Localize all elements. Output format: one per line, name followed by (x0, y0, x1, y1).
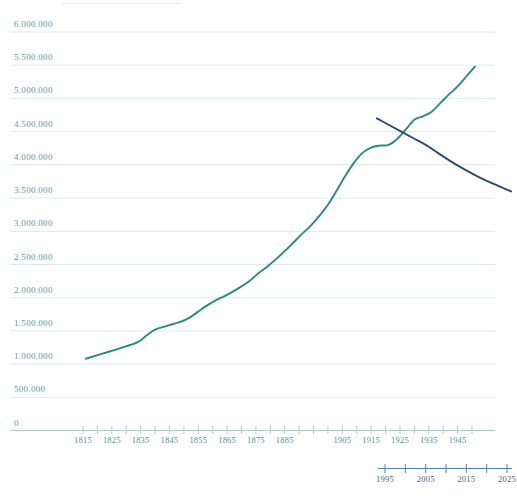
y-axis-tick-label: 4.000.000 (14, 152, 53, 162)
x-axis-tick-label: 1855 (189, 435, 207, 445)
x-axis-tick-label: 1905 (333, 435, 351, 445)
series-line-projection (377, 118, 511, 191)
x-axis-primary-labels: 1815182518351845185518651875188519051915… (74, 435, 466, 445)
y-axis-tick-label: 2.500.000 (14, 252, 53, 262)
x-axis-secondary-labels: 1995200520152025 (376, 474, 516, 484)
x-axis-tick-label: 1875 (247, 435, 265, 445)
x-axis-secondary: 1995200520152025 (376, 464, 516, 484)
gridline-group (10, 4, 495, 431)
x-axis-tick-label: 1815 (74, 435, 92, 445)
series-line-historic (86, 67, 475, 359)
y-axis-tick-label: 5.500.000 (14, 52, 53, 62)
x-axis-tick-label: 1825 (103, 435, 121, 445)
x-axis-secondary-tick-label: 2025 (498, 474, 516, 484)
y-axis-tick-label: 6.000.000 (14, 19, 53, 29)
y-axis-tick-label: 1.500.000 (14, 318, 53, 328)
x-axis-tick-label: 1885 (276, 435, 294, 445)
population-line-chart: 6.000.0005.500.0005.000.0004.500.0004.00… (0, 0, 517, 501)
y-axis-tick-label: 3.000.000 (14, 218, 53, 228)
x-axis-secondary-tick-label: 2015 (457, 474, 475, 484)
y-axis-tick-label: 1.000.000 (14, 351, 53, 361)
y-axis-tick-label: 0 (14, 418, 19, 428)
y-axis-tick-label: 500.000 (14, 384, 46, 394)
y-axis-tick-label: 3.500.000 (14, 185, 53, 195)
x-axis-primary: 1815182518351845185518651875188519051915… (10, 426, 495, 445)
x-axis-tick-label: 1945 (449, 435, 467, 445)
x-axis-secondary-tick-label: 1995 (376, 474, 394, 484)
y-axis-tick-label: 5.000.000 (14, 85, 53, 95)
x-axis-tick-label: 1935 (420, 435, 438, 445)
x-axis-tick-label: 1865 (218, 435, 236, 445)
x-axis-secondary-tick-label: 2005 (417, 474, 435, 484)
chart-container: 6.000.0005.500.0005.000.0004.500.0004.00… (0, 0, 517, 501)
x-axis-tick-label: 1915 (362, 435, 380, 445)
x-axis-tick-label: 1925 (391, 435, 409, 445)
y-axis-tick-label: 2.000.000 (14, 285, 53, 295)
x-axis-tick-label: 1835 (132, 435, 150, 445)
x-axis-tick-label: 1845 (160, 435, 178, 445)
y-axis-tick-label: 4.500.000 (14, 119, 53, 129)
y-axis-tick-label-group: 6.000.0005.500.0005.000.0004.500.0004.00… (14, 19, 53, 428)
